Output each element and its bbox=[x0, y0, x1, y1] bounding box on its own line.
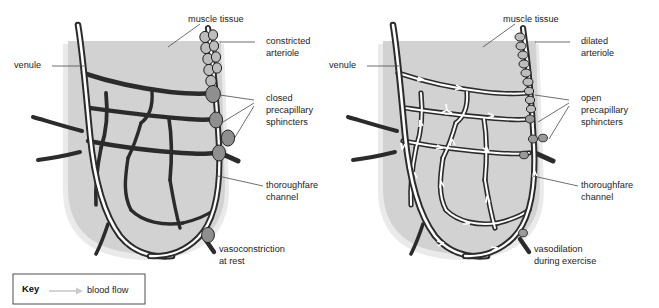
label-closed-sphincters-line2: precapillary bbox=[266, 105, 313, 115]
caption-vasodilation-line2: during exercise bbox=[534, 256, 596, 266]
label-closed-sphincters-line3: sphincters bbox=[266, 117, 308, 127]
label-dilated-arteriole-line2: arteriole bbox=[581, 48, 614, 58]
sphincter-open-3 bbox=[539, 134, 548, 142]
caption-vasoconstriction-line2: at rest bbox=[219, 256, 245, 266]
caption-vasodilation-line1: vasodilation bbox=[534, 244, 583, 254]
sphincter-closed-4 bbox=[212, 145, 225, 161]
key-legend: Key blood flow bbox=[13, 274, 145, 304]
sphincter-closed-3 bbox=[221, 130, 234, 146]
key-entry-label: blood flow bbox=[87, 285, 129, 295]
label-thoroughfare-exercise-line1: thoroughfare bbox=[581, 180, 633, 190]
label-open-sphincters-line3: sphincters bbox=[581, 117, 623, 127]
label-constricted-arteriole-line1: constricted bbox=[266, 36, 310, 46]
sphincter-open-5 bbox=[519, 229, 528, 237]
capillary-bed-diagram: muscle tissue venule constricted arterio… bbox=[0, 0, 659, 308]
key-title: Key bbox=[22, 283, 40, 294]
sphincter-closed-1 bbox=[206, 85, 221, 102]
label-thoroughfare-rest-line1: thoroughfare bbox=[266, 180, 318, 190]
label-open-sphincters-line2: precapillary bbox=[581, 105, 628, 115]
label-venule-exercise: venule bbox=[329, 60, 356, 70]
label-muscle-tissue-rest: muscle tissue bbox=[188, 14, 244, 24]
sphincter-closed-2 bbox=[209, 112, 222, 128]
sphincter-open-4 bbox=[520, 151, 529, 159]
label-closed-sphincters-line1: closed bbox=[266, 93, 293, 103]
label-thoroughfare-exercise-line2: channel bbox=[581, 192, 613, 202]
sphincter-closed-5 bbox=[202, 227, 215, 242]
label-venule-rest: venule bbox=[14, 60, 41, 70]
label-muscle-tissue-exercise: muscle tissue bbox=[503, 14, 559, 24]
label-constricted-arteriole-line2: arteriole bbox=[266, 48, 299, 58]
caption-vasoconstriction-line1: vasoconstriction bbox=[219, 244, 285, 254]
label-thoroughfare-rest-line2: channel bbox=[266, 192, 298, 202]
sphincter-open-1 bbox=[525, 115, 534, 123]
sphincter-open-2 bbox=[528, 135, 537, 143]
label-open-sphincters-line1: open bbox=[581, 93, 601, 103]
label-dilated-arteriole-line1: dilated bbox=[581, 36, 608, 46]
